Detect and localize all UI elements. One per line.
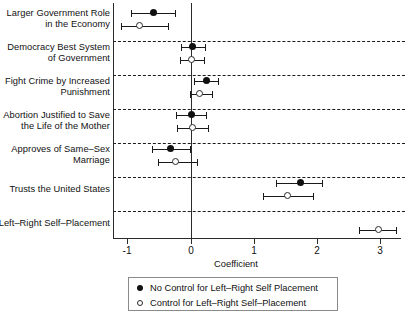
y-axis-label-6-line-1: Left–Right Self–Placement [0,218,110,229]
y-axis-label-4: Approves of Same–Sex Marriage [0,144,110,167]
y-axis-label-2-line-2: Punishment [0,87,110,98]
y-axis-label-0-line-2: in the Economy [0,19,110,30]
filled-circle-icon [137,285,143,291]
estimate-point-no-control [203,77,210,84]
y-axis-label-4-line-1: Approves of Same–Sex [0,144,110,155]
estimate-point-no-control [188,111,195,118]
ci-cap-upper [322,180,323,187]
row-separator-6 [113,211,405,212]
ci-cap-lower [180,57,181,64]
ci-cap-upper [175,10,176,17]
ci-cap-lower [263,193,264,200]
legend-entry-no-control-label: No Control for Left–Right Self Placement [150,283,318,293]
estimate-point-control [188,56,195,63]
x-axis-title: Coefficient [0,259,412,269]
ci-cap-upper [218,78,219,85]
ci-cap-upper [206,112,207,119]
estimate-point-control [284,192,291,199]
x-tick-label-3: 2 [304,245,330,256]
estimate-point-no-control [167,145,174,152]
x-tick-4 [380,239,381,244]
ci-cap-lower [177,125,178,132]
x-axis-title-text: Coefficient [214,259,258,269]
y-axis-label-1: Democracy Best System of Government [0,42,110,65]
x-tick-0 [127,239,128,244]
open-circle-icon [137,300,143,306]
ci-cap-upper [190,146,191,153]
ci-cap-lower [176,112,177,119]
row-separator-4 [113,143,405,144]
estimate-point-control [375,226,382,233]
y-axis-label-3: Abortion Justified to Save the Life of t… [0,110,110,133]
ci-cap-upper [168,23,169,30]
ci-cap-upper [212,91,213,98]
y-axis-label-5: Trusts the United States [0,184,110,195]
ci-cap-lower [359,227,360,234]
estimate-point-control [172,158,179,165]
ci-cap-lower [152,146,153,153]
ci-cap-upper [396,227,397,234]
x-tick-1 [191,239,192,244]
x-tick-3 [317,239,318,244]
x-tick-label-2: 1 [241,245,267,256]
row-separator-3 [113,109,405,110]
y-axis-label-3-line-2: the Life of the Mother [0,121,110,132]
ci-cap-lower [276,180,277,187]
ci-cap-lower [194,78,195,85]
estimate-point-no-control [189,43,196,50]
ci-cap-upper [313,193,314,200]
x-tick-label-1: 0 [178,245,204,256]
ci-cap-lower [181,44,182,51]
x-tick-2 [254,239,255,244]
ci-cap-lower [131,10,132,17]
y-axis-label-2: Fight Crime by Increased Punishment [0,76,110,99]
y-axis-label-0: Larger Government Role in the Economy [0,8,110,31]
legend: No Control for Left–Right Self Placement… [128,277,338,311]
row-separator-1 [113,41,405,42]
estimate-point-no-control [297,179,304,186]
ci-cap-lower [190,91,191,98]
ci-cap-lower [121,23,122,30]
y-axis-label-3-line-1: Abortion Justified to Save [0,110,110,121]
legend-entry-no-control: No Control for Left–Right Self Placement [137,280,318,295]
zero-reference-line [191,3,192,239]
y-axis-label-2-line-1: Fight Crime by Increased [0,76,110,87]
estimate-point-control [136,22,143,29]
confidence-interval-bar [121,26,168,27]
coefficient-plot-figure: Larger Government Role in the Economy De… [0,0,412,320]
y-axis-label-1-line-2: of Government [0,53,110,64]
y-axis-label-6: Left–Right Self–Placement [0,218,110,229]
row-separator-2 [113,75,405,76]
y-axis-label-4-line-2: Marriage [0,155,110,166]
ci-cap-upper [205,44,206,51]
estimate-point-no-control [150,9,157,16]
ci-cap-upper [208,125,209,132]
y-axis-label-1-line-1: Democracy Best System [0,42,110,53]
row-separator-5 [113,177,405,178]
x-tick-label-0: -1 [114,245,140,256]
legend-entry-control-label: Control for Left–Right Self–Placement [150,298,306,308]
y-axis-label-5-line-1: Trusts the United States [0,184,110,195]
ci-cap-lower [158,159,159,166]
ci-cap-upper [197,159,198,166]
estimate-point-control [196,90,203,97]
ci-cap-upper [204,57,205,64]
x-axis-line [113,238,401,239]
x-tick-label-4: 3 [367,245,393,256]
y-axis-label-0-line-1: Larger Government Role [0,8,110,19]
legend-entry-control: Control for Left–Right Self–Placement [137,295,306,310]
estimate-point-control [189,124,196,131]
y-axis-line [113,3,114,239]
